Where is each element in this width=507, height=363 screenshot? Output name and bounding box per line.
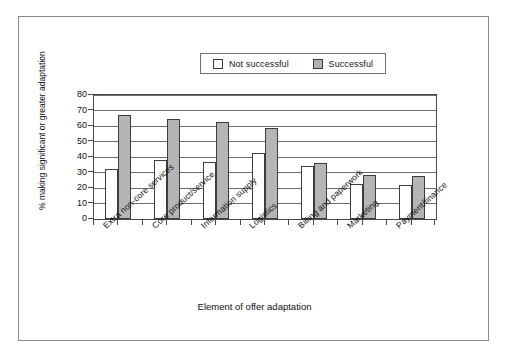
y-axis-tick-label: 60 [77,120,87,130]
legend-label-successful: Successful [329,59,374,69]
y-axis-tick-label: 50 [77,136,87,146]
y-axis-tick-label: 40 [77,151,87,161]
legend-item-not-successful: Not successful [213,59,289,69]
chart-figure-frame: Not successful Successful % making signi… [18,16,489,341]
y-axis-tick-label: 10 [77,198,87,208]
y-axis-tick-label: 0 [82,213,87,223]
y-axis-tick-label: 70 [77,105,87,115]
plot-area [93,94,437,220]
legend-swatch-successful-icon [313,59,323,69]
gridline [94,126,436,127]
y-axis-tick-label: 20 [77,182,87,192]
legend-item-successful: Successful [313,59,374,69]
y-axis-tick-label: 80 [77,89,87,99]
x-axis-title: Element of offer adaptation [19,301,490,312]
y-axis-title: % making significant or greater adaptati… [37,70,47,210]
gridline [94,95,436,96]
chart-legend: Not successful Successful [200,53,386,74]
y-axis-ticks: 01020304050607080 [71,94,93,220]
legend-label-not-successful: Not successful [229,59,289,69]
legend-swatch-not-successful-icon [213,59,223,69]
gridline [94,110,436,111]
y-axis-tick-label: 30 [77,167,87,177]
x-axis-category-labels: Extra non-core servicesCore product/serv… [93,223,437,313]
